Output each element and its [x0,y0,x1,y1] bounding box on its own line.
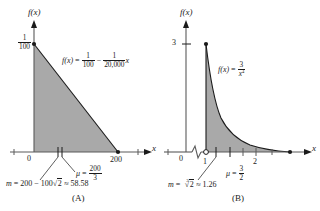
panel-a-median-label: m = 200 − 100√2 ≈ 58.58 [6,180,89,188]
panel-a-x-tick-200: 200 [110,156,122,164]
panel-a-equation-term1-den: 100 [82,61,95,68]
panel-b-y-axis-label: f(x) [180,8,193,17]
panel-b: f(x) x 3 0 1 2 f(x) = 3x4 μ = 32 m = 3√2… [160,0,320,211]
panel-b-x-tick-label-1: 1 [203,158,207,166]
panel-b-x-axis-label: x [312,144,316,153]
panel-b-median-label: m = 3√2 ≈ 1.26 [168,180,217,189]
panel-a-median-text-a: 200 [20,179,32,188]
panel-a-y-axis-label: f(x) [28,8,41,17]
panel-b-median-leader [198,157,216,180]
panel-a-median-leader [40,157,58,180]
panel-b-median-index: 3 [186,178,188,183]
panel-a-x-axis-arrow [144,149,152,155]
panel-b-curve-start-point [204,42,208,46]
panel-b-equation-den-exp: 4 [242,69,244,74]
panel-b-x-axis-arrow [304,149,312,155]
panel-a-caption: (A) [72,194,85,203]
panel-b-mean-den: 2 [239,174,245,181]
panel-b-origin-label: 0 [179,155,183,163]
panel-a: f(x) x 1 100 0 200 f(x) = 1100 − 120,000… [0,0,160,211]
panel-a-mean-leader [62,157,75,172]
panel-a-equation-var: x [125,56,129,65]
panel-a-y-intercept-point [32,42,36,46]
panel-a-x-intercept-point [116,150,120,154]
panel-b-caption: (B) [232,194,244,203]
panel-a-median-value: 58.58 [71,179,89,188]
panel-a-y-tick-label: 1 100 [18,35,31,51]
panel-a-median-text-b: 100 [41,179,53,188]
panel-a-equation: f(x) = 1100 − 120,000x [62,53,129,69]
panel-a-y-tick-den: 100 [18,43,31,50]
panel-b-median-value: 1.26 [203,180,217,189]
panel-a-origin-label: 0 [27,155,31,163]
panel-b-open-circle-x1 [204,150,209,155]
panel-b-axis-break-zigzag [192,146,201,158]
panel-a-mean-den: 3 [89,174,102,181]
panel-a-equation-lhs: f(x) [62,56,73,65]
panel-a-x-axis-label: x [152,144,156,153]
panel-b-mean-label: μ = 32 [226,166,244,182]
panel-b-curve-end-point [288,150,292,154]
figure-root: f(x) x 1 100 0 200 f(x) = 1100 − 120,000… [0,0,320,211]
panel-b-y-tick-label-3: 3 [172,39,176,47]
panel-b-equation-lhs: f(x) [218,65,229,74]
panel-b-shaded-area [206,44,290,152]
panel-a-equation-term2-den: 20,000 [103,61,125,68]
panel-b-equation: f(x) = 3x4 [218,62,245,78]
panel-b-x-tick-label-2: 2 [253,158,257,166]
panel-b-y-axis-arrow [183,20,189,28]
panel-a-y-axis-arrow [31,20,37,28]
